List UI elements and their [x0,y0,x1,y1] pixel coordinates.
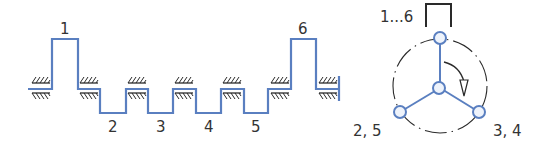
throw-label-2: 2 [108,118,118,136]
throw-label-6: 6 [298,20,308,38]
label-bottom-right: 3, 4 [493,122,522,140]
throw-label-4: 4 [204,118,214,136]
throw-label-1: 1 [60,20,70,38]
throw-label-3: 3 [156,118,166,136]
node-top [434,32,446,44]
throw-label-5: 5 [251,118,261,136]
throw-symbol [426,4,451,27]
node-bottom-right [473,106,485,118]
rotation-arrow-icon [444,62,464,82]
crankshaft-line [28,39,339,113]
end-view: 1...6 2, 5 3, 4 [353,4,522,140]
label-top: 1...6 [380,8,413,26]
label-bottom-left: 2, 5 [353,122,382,140]
node-center [433,82,445,94]
node-bottom-left [394,106,406,118]
rotation-arrowhead-icon [460,80,468,96]
crankshaft-diagram: 1 2 3 4 5 6 1...6 2, 5 3, 4 [0,0,542,143]
